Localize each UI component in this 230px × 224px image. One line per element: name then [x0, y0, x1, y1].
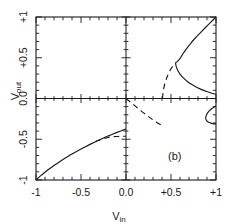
- curve-lower-unstable-branch: [95, 136, 126, 141]
- x-tick-labels: -1-0.50.0+0.5+1: [31, 186, 222, 198]
- x-tick-label: 0.0: [119, 186, 134, 198]
- x-tick-label: -0.5: [72, 186, 90, 198]
- curve-upper-stable-branch: [176, 17, 216, 94]
- x-tick-label: +1: [210, 186, 222, 198]
- y-axis-title-text: V: [9, 93, 21, 100]
- y-tick-label: +1: [17, 11, 29, 23]
- x-axis-title-sub: in: [120, 215, 126, 224]
- panel-label: (b): [168, 150, 181, 162]
- y-tick-label: -0.5: [17, 130, 29, 148]
- curve-lower-stable-branch: [36, 129, 126, 180]
- chart-canvas: -1-0.50.0+0.5+1 -1-0.50.0+0.5+1: [0, 0, 230, 224]
- curve-upper-unstable-branch: [162, 63, 175, 99]
- x-tick-label: +0.5: [161, 186, 182, 198]
- y-axis-title: Vout: [5, 71, 19, 111]
- x-tick-label: -1: [31, 186, 40, 198]
- y-axis-title-sub: out: [14, 82, 23, 93]
- curve-origin-unstable-branch: [126, 99, 162, 126]
- figure-panel-b: -1-0.50.0+0.5+1 -1-0.50.0+0.5+1 Vout Vin…: [0, 0, 230, 224]
- y-tick-label: +0.5: [17, 47, 29, 68]
- x-axis-title: Vin: [96, 206, 142, 224]
- y-tick-label: -1: [17, 175, 29, 184]
- x-axis-title-text: V: [112, 210, 119, 222]
